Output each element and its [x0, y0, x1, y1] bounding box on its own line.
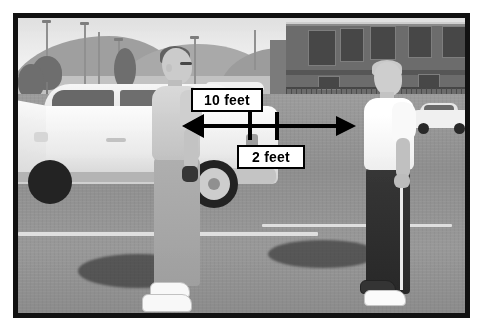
- tick-mark-right: [275, 112, 279, 140]
- eyeglasses: [180, 62, 192, 65]
- suv-wheel: [28, 160, 72, 204]
- callout-2-feet: 2 feet: [237, 145, 305, 169]
- light-pole-head: [80, 22, 89, 25]
- person-left: [136, 46, 222, 313]
- photograph: 10 feet 2 feet: [18, 18, 465, 313]
- building-window: [340, 28, 364, 62]
- arm: [396, 138, 410, 178]
- hand: [394, 174, 410, 188]
- building-window: [370, 26, 396, 60]
- suv-side-mirror: [34, 132, 48, 142]
- ear: [166, 64, 172, 72]
- callout-10-feet: 10 feet: [191, 88, 263, 112]
- head: [374, 62, 402, 96]
- building-window: [408, 26, 432, 58]
- arrowhead-right: [336, 116, 356, 136]
- suv-door-handle: [106, 138, 126, 142]
- distance-arrow-shaft: [200, 124, 340, 128]
- building-window: [442, 26, 465, 58]
- callout-10-feet-label: 10 feet: [204, 93, 250, 107]
- sedan-wheel: [454, 123, 465, 134]
- building-window: [308, 30, 336, 66]
- callout-2-feet-label: 2 feet: [252, 150, 290, 164]
- shoe: [364, 290, 406, 306]
- arrowhead-left: [182, 114, 204, 138]
- light-pole: [254, 30, 256, 70]
- hand: [182, 166, 198, 182]
- figure-page: 10 feet 2 feet: [0, 0, 487, 330]
- sleeve: [392, 102, 416, 142]
- person-right: [356, 62, 424, 312]
- tick-mark-left: [248, 112, 252, 140]
- shoe: [142, 294, 192, 312]
- photo-frame: 10 feet 2 feet: [13, 13, 470, 318]
- pant-stripe: [400, 170, 403, 290]
- light-pole-head: [190, 36, 199, 39]
- light-pole-head: [42, 20, 51, 23]
- light-pole-head: [114, 38, 123, 41]
